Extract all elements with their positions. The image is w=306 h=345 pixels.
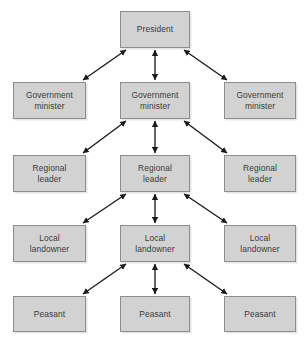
connector-gov-to-regional-left — [83, 121, 126, 153]
connector-gov-to-regional-right — [184, 121, 227, 153]
node-local-landowner-left[interactable]: Local landowner — [13, 225, 86, 262]
node-peasant-right[interactable]: Peasant — [224, 296, 296, 332]
node-local-landowner-right[interactable]: Local landowner — [224, 225, 296, 262]
node-label: Government minister — [24, 90, 75, 112]
node-local-landowner-center[interactable]: Local landowner — [120, 225, 190, 262]
node-label: Local landowner — [28, 233, 72, 255]
node-peasant-center[interactable]: Peasant — [120, 296, 190, 332]
node-label: President — [135, 24, 175, 35]
hierarchy-diagram: President Government minister Government… — [0, 0, 306, 345]
connector-regional-to-local-left — [83, 194, 126, 223]
connector-local-to-peasant-right — [184, 264, 227, 294]
node-label: Regional leader — [31, 163, 69, 185]
node-label: Peasant — [32, 309, 67, 320]
node-gov-minister-right[interactable]: Government minister — [224, 82, 296, 119]
node-president[interactable]: President — [120, 11, 190, 48]
node-label: Regional leader — [136, 163, 174, 185]
connector-local-to-peasant-left — [83, 264, 126, 294]
node-label: Government minister — [234, 90, 285, 112]
node-gov-minister-left[interactable]: Government minister — [13, 82, 86, 119]
node-regional-leader-right[interactable]: Regional leader — [224, 155, 296, 192]
node-label: Regional leader — [241, 163, 279, 185]
node-gov-minister-center[interactable]: Government minister — [120, 82, 190, 119]
node-label: Peasant — [137, 309, 172, 320]
node-peasant-left[interactable]: Peasant — [13, 296, 86, 332]
node-label: Local landowner — [238, 233, 282, 255]
connector-pres-to-gov-right — [184, 50, 227, 80]
connector-regional-to-local-right — [184, 194, 227, 223]
node-label: Peasant — [242, 309, 277, 320]
node-regional-leader-center[interactable]: Regional leader — [120, 155, 190, 192]
node-label: Government minister — [129, 90, 180, 112]
connector-pres-to-gov-left — [83, 50, 126, 80]
node-regional-leader-left[interactable]: Regional leader — [13, 155, 86, 192]
node-label: Local landowner — [133, 233, 177, 255]
